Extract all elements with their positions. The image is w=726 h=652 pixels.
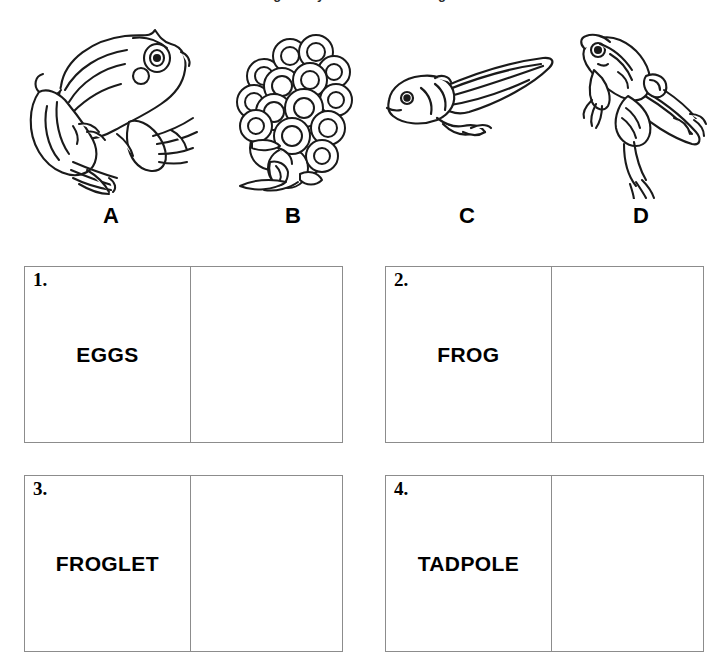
answer-box-1-answer-area[interactable] [190, 267, 342, 442]
answer-box-2-answer-area[interactable] [551, 267, 703, 442]
answer-box-4[interactable]: 4. TADPOLE [385, 475, 704, 652]
froglet-illustration [566, 14, 716, 199]
answer-box-2[interactable]: 2. FROG [385, 266, 704, 443]
answer-box-3[interactable]: 3. FROGLET [24, 475, 343, 652]
specimen-a-letter: A [16, 205, 206, 227]
tadpole-illustration [377, 14, 557, 199]
specimen-c: C [372, 14, 562, 227]
answer-box-4-number: 4. [394, 479, 408, 500]
answer-box-4-answer-area[interactable] [551, 476, 703, 651]
page-title-remnant: frog life cycle worksheet diagram [0, 0, 726, 3]
specimen-strip: A [0, 14, 726, 242]
adult-frog-illustration [21, 14, 201, 199]
answer-box-3-term: FROGLET [25, 476, 190, 651]
answer-box-1[interactable]: 1. EGGS [24, 266, 343, 443]
answer-box-2-number: 2. [394, 270, 408, 291]
specimen-a: A [16, 14, 206, 227]
specimen-b: B [218, 14, 368, 227]
specimen-d-letter: D [556, 205, 726, 227]
answer-box-grid: 1. EGGS 2. FROG 3. FROGLET 4. TADPOLE [24, 266, 703, 639]
specimen-b-letter: B [218, 205, 368, 227]
answer-box-1-term: EGGS [25, 267, 190, 442]
answer-box-4-term: TADPOLE [386, 476, 551, 651]
answer-box-3-number: 3. [33, 479, 47, 500]
specimen-c-letter: C [372, 205, 562, 227]
answer-box-3-answer-area[interactable] [190, 476, 342, 651]
answer-box-1-number: 1. [33, 270, 47, 291]
answer-box-2-term: FROG [386, 267, 551, 442]
specimen-d: D [556, 14, 726, 227]
frog-eggs-illustration [230, 14, 356, 199]
